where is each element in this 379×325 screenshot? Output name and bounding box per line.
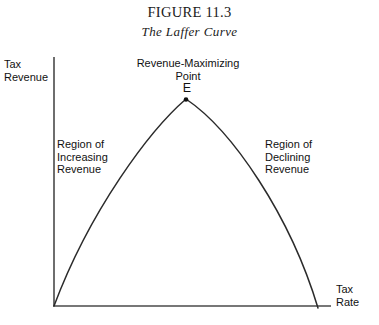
x-axis-label: Tax Rate (336, 283, 359, 308)
region-increasing-revenue-label: Region of Increasing Revenue (57, 138, 108, 176)
laffer-curve-figure: FIGURE 11.3 The Laffer Curve Tax Revenue… (0, 0, 379, 325)
x-axis-label-line2: Rate (336, 296, 359, 309)
region-increasing-line3: Revenue (57, 163, 108, 176)
region-declining-line3: Revenue (265, 163, 312, 176)
peak-label-line1: Revenue-Maximizing (128, 57, 248, 70)
revenue-maximizing-point-marker (184, 97, 189, 102)
revenue-maximizing-point-label: Revenue-Maximizing Point (128, 57, 248, 82)
equilibrium-point-label: E (168, 82, 206, 95)
region-increasing-line2: Increasing (57, 151, 108, 164)
y-axis-label-line2: Revenue (4, 71, 48, 84)
y-axis-label: Tax Revenue (4, 58, 48, 83)
x-axis-label-line1: Tax (336, 283, 359, 296)
region-declining-line2: Declining (265, 151, 312, 164)
region-increasing-line1: Region of (57, 138, 108, 151)
region-declining-line1: Region of (265, 138, 312, 151)
region-declining-revenue-label: Region of Declining Revenue (265, 138, 312, 176)
y-axis-label-line1: Tax (4, 58, 48, 71)
laffer-curve-path (54, 99, 318, 308)
